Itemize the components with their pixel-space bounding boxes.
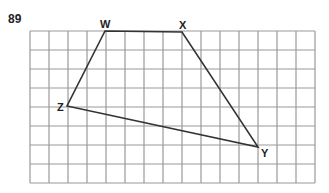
vertex-label-x: X — [179, 19, 187, 31]
vertex-label-z: Z — [57, 101, 64, 113]
vertex-label-y: Y — [261, 147, 269, 159]
vertex-label-w: W — [100, 18, 111, 30]
quadrilateral-diagram: WXYZ — [0, 0, 329, 193]
